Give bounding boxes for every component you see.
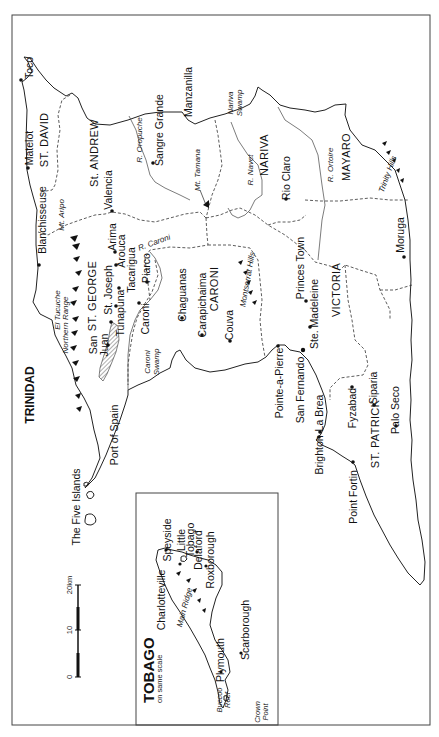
town-carapichaima: Carapichaima	[196, 272, 208, 337]
trinity-hills-label: Trinity Hills	[377, 155, 399, 194]
river-navet-label: R. Navet	[246, 154, 255, 186]
caroni-swamp-label-2: Swamp	[152, 348, 161, 375]
inset-subtitle: on same scale	[155, 655, 164, 703]
district-st-george: ST. GEORGE	[86, 261, 98, 331]
town-matelot: Matelot	[23, 131, 35, 166]
map-title: TRINIDAD	[23, 366, 37, 424]
five-islands-label: The Five Islands	[70, 468, 82, 545]
river-oropuche-label: R. Oropuche	[135, 117, 144, 163]
town-blanchisseuse: Blanchisseuse	[36, 186, 48, 254]
scale-bar	[75, 585, 81, 677]
town-san-juan-2: Juan	[98, 333, 110, 356]
district-border	[268, 215, 306, 225]
town-valencia: Valencia	[102, 170, 114, 210]
tobago-town-delaford: Delaford	[192, 530, 204, 570]
scale-label-10: 10	[65, 626, 74, 634]
tobago-town-plymouth: Plymouth	[214, 638, 226, 682]
district-st-david: ST. DAVID	[38, 113, 50, 167]
town-san-fernando: San Fernando	[294, 357, 306, 424]
district-nariva: NARIVA	[258, 134, 270, 176]
town-manzanilla: Manzanilla	[182, 67, 194, 117]
town-port-of-spain: Port of Spain	[108, 404, 120, 465]
town-palo-seco: Palo Seco	[389, 386, 401, 434]
r-navet	[228, 122, 262, 218]
tobago-town-roxborough: Roxborough	[204, 531, 216, 588]
caroni-swamp-label-1: Caroni	[143, 350, 152, 374]
town-rio-claro: Rio Claro	[280, 156, 292, 200]
town-couva: Couva	[223, 310, 235, 341]
town-siparia: Siparia	[367, 371, 379, 404]
northern-range-label: Northern Range	[61, 296, 70, 353]
nariva-swamp-label-2: Swamp	[235, 89, 244, 116]
town-toco: Toco	[23, 57, 35, 79]
town-caroni: Caroni	[139, 304, 151, 335]
river-ortoire-label: R. Ortoire	[326, 147, 335, 182]
scale-label-20: 20km	[65, 576, 74, 594]
mt-tamana-label: Mt. Tamana	[193, 148, 202, 190]
mt-tamana-leader	[200, 190, 206, 205]
crown-point-label-2: Point	[261, 703, 270, 721]
town-chaguanas: Chaguanas	[176, 268, 188, 322]
town-st-joseph: St. Joseph	[102, 265, 114, 315]
nariva-swamp-label-1: Nariva	[226, 91, 235, 115]
tobago-coastline	[156, 548, 230, 708]
tobago-town-scarborough: Scarborough	[239, 600, 251, 660]
montserrat-hills-label: Montserrat Hills	[238, 251, 257, 307]
district-caroni: CARONI	[208, 267, 220, 312]
town-tacarigua: Tacarigua	[125, 247, 137, 293]
district-victoria: VICTORIA	[330, 263, 342, 318]
five-islands	[85, 514, 96, 525]
town-sangre-grande: Sangre Grande	[153, 94, 165, 166]
town-point-fortin: Point Fortin	[347, 470, 359, 524]
tobago-town-speyside: Speyside	[161, 518, 173, 561]
map-labels: TRINIDAD ST. DAVID St. ANDREW NARIVA MAY…	[23, 57, 406, 723]
district-st-patrick: ST. PATRICK	[369, 399, 381, 468]
scale-label-0: 0	[65, 675, 74, 679]
town-pointe-a-pierre: Pointe-a-Pierre	[273, 348, 285, 419]
town-ste-madeleine: Ste. Madeleine	[308, 279, 320, 349]
mt-tamana-hill	[203, 200, 209, 208]
island	[87, 491, 95, 498]
district-border	[305, 198, 408, 201]
town-fyzabad: Fyzabad	[346, 388, 358, 428]
town-princes-town: Princes Town	[294, 237, 306, 299]
district-st-andrew: St. ANDREW	[88, 119, 100, 187]
mt-aripo-label: Mt. Aripo	[57, 199, 66, 231]
town-brighton: Brighton	[313, 435, 325, 474]
district-mayaro: MAYARO	[340, 133, 352, 181]
town-la-brea: La Brea	[313, 394, 325, 431]
trinidad-tobago-map: TRINIDAD ST. DAVID St. ANDREW NARIVA MAY…	[0, 0, 439, 737]
district-border	[380, 285, 412, 290]
town-piarco: Piarco	[140, 253, 152, 283]
tobago-town-charlotteville: Charlotteville	[155, 569, 167, 630]
town-tunapuna: Tunapuna	[114, 289, 126, 336]
map-frame	[12, 15, 430, 725]
district-border	[206, 208, 305, 250]
main-ridge-label: Main Ridge	[175, 586, 194, 628]
buccoo-reef-label-2: Reef	[223, 691, 232, 708]
town-moruga: Moruga	[394, 217, 406, 253]
